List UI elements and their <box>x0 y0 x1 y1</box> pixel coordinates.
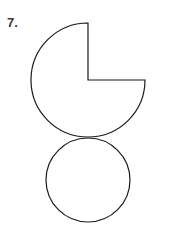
three-quarter-circle-shape <box>31 23 145 137</box>
lower-circle-shape <box>46 138 130 222</box>
geometry-figure <box>0 0 173 246</box>
figure-page: 7. <box>0 0 173 246</box>
